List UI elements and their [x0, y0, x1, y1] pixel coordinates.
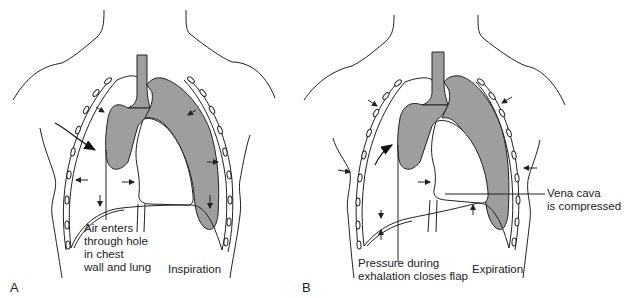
vena-cava-b	[428, 200, 437, 232]
right-shoulder-outline	[186, 10, 275, 98]
pressure-arrow	[96, 107, 104, 112]
left-shoulder-outline	[13, 10, 104, 100]
pressure-arrow	[338, 170, 350, 172]
panel-letter-a: A	[10, 280, 19, 295]
pressure-arrow	[502, 97, 512, 103]
air-entry-arrow	[55, 123, 95, 150]
phase-label-expiration: Expiration	[472, 263, 523, 276]
panel-b	[304, 15, 565, 278]
panel-letter-b: B	[302, 280, 311, 295]
left-torso-outline	[40, 128, 62, 278]
right-torso-outline	[523, 140, 540, 278]
flap-closing-arrow	[375, 145, 392, 165]
right-shoulder-outline	[478, 15, 565, 105]
left-torso-outline	[333, 138, 354, 278]
pressure-arrow	[368, 100, 377, 106]
air-enters-annotation: Air enters through hole in chest wall an…	[84, 222, 151, 274]
trachea	[128, 55, 150, 108]
left-shoulder-outline	[304, 15, 394, 100]
vena-cava-annotation: Vena cava is compressed	[547, 187, 621, 213]
flap-closes-annotation: Pressure during exhalation closes flap	[358, 257, 468, 283]
trachea	[422, 52, 448, 105]
phase-label-inspiration: Inspiration	[168, 263, 221, 276]
